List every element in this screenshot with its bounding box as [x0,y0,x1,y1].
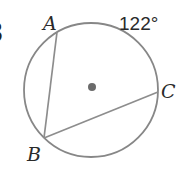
center-dot [88,83,96,91]
point-label-b: B [26,143,41,165]
point-label-a: A [41,12,57,34]
chord-ab [44,32,57,138]
point-label-c: C [161,80,176,102]
chord-bc [44,92,158,138]
arc-measure-label: 122° [119,13,158,34]
geometry-diagram: A B C 122° 3 [0,0,187,170]
circle-inscribed-angle-figure: A B C 122° 3 [0,0,187,170]
cropped-left-character: 3 [0,15,3,48]
